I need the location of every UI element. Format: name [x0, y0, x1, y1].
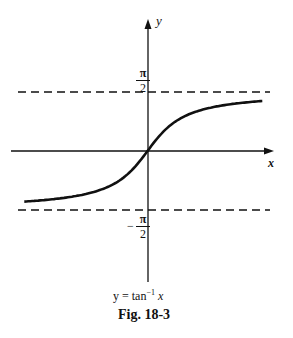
- y-axis-arrow-icon: [145, 19, 152, 29]
- lower-label-denominator: 2: [136, 227, 150, 240]
- upper-label-numerator: π: [136, 67, 150, 81]
- y-axis-label: y: [156, 13, 162, 29]
- caption-function: y = tan: [113, 289, 146, 303]
- lower-label-sign: −: [127, 219, 134, 234]
- x-axis-arrow-icon: [264, 148, 274, 155]
- caption-variable: x: [155, 289, 163, 303]
- upper-asymptote-label: π 2: [136, 67, 150, 94]
- caption-exponent: −1: [146, 288, 155, 297]
- lower-label-numerator: π: [136, 213, 150, 227]
- figure-caption: Fig. 18-3: [118, 307, 170, 323]
- x-axis-label: x: [268, 156, 274, 171]
- function-caption: y = tan−1 x: [113, 288, 163, 304]
- lower-asymptote-label: π 2: [136, 213, 150, 240]
- upper-label-denominator: 2: [136, 81, 150, 94]
